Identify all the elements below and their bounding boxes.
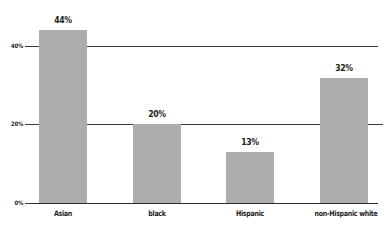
category-label-hispanic: Hispanic [218, 209, 282, 218]
y-tick-mark-20 [25, 124, 31, 125]
y-tick-label-0: 0% [5, 199, 23, 206]
y-tick-mark-40 [25, 46, 31, 47]
y-tick-mark-0 [25, 203, 31, 204]
category-label-asian: Asian [31, 209, 95, 218]
bar-black [133, 124, 181, 203]
category-label-black: black [125, 209, 189, 218]
bar-hispanic [226, 152, 274, 203]
y-tick-label-40: 40% [5, 42, 23, 49]
bar-value-label-non-hispanic-white: 32% [323, 63, 364, 73]
x-axis-baseline [31, 203, 378, 204]
bar-value-label-black: 20% [136, 109, 177, 119]
plot-area: 40% 20% 0% 44% Asian 20% black 13% Hispa… [0, 0, 392, 234]
bar-chart: 40% 20% 0% 44% Asian 20% black 13% Hispa… [0, 0, 392, 234]
bar-non-hispanic-white [320, 78, 368, 203]
bar-asian [39, 30, 87, 203]
category-label-non-hispanic-white: non-Hispanic white [312, 209, 379, 218]
y-tick-mark-20-right [378, 124, 383, 125]
bar-value-label-hispanic: 13% [229, 137, 270, 147]
y-tick-label-20: 20% [5, 120, 23, 127]
bar-value-label-asian: 44% [42, 15, 83, 25]
